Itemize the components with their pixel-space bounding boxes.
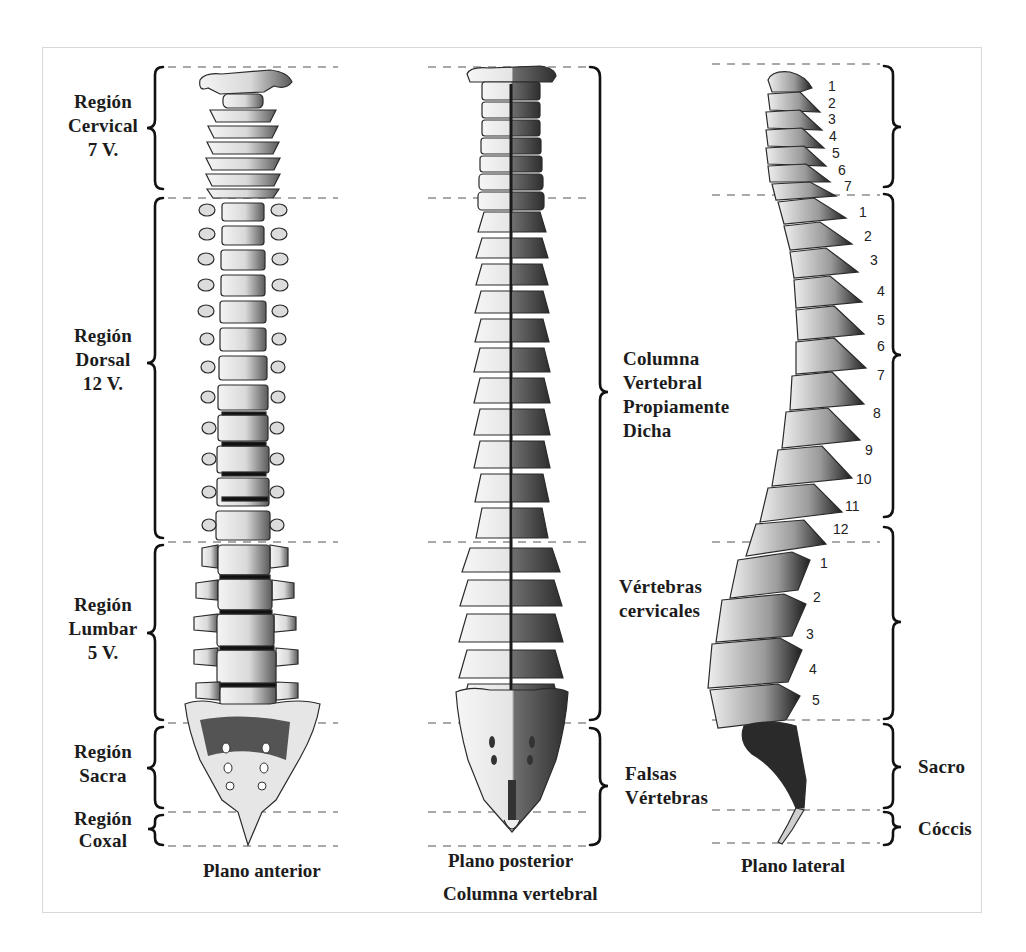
vertebra-number: 8 (873, 405, 881, 421)
vertebra-number: 1 (828, 78, 836, 94)
vertebra-number: 6 (877, 338, 885, 354)
brace-sacra (147, 727, 163, 808)
label-coccis: Cóccis (918, 817, 972, 841)
vertebra-number: 4 (877, 283, 885, 299)
brace-lateral-cervical (884, 66, 901, 187)
brace-cervical (147, 67, 163, 189)
label-columna-propiamente-dicha: Columna Vertebral Propiamente Dicha (623, 347, 729, 443)
caption-plano-anterior: Plano anterior (203, 860, 321, 882)
brace-dorsal (147, 198, 163, 538)
label-vertebras-cervicales: Vértebras cervicales (619, 575, 702, 623)
vertebra-number: 3 (806, 626, 814, 642)
label-falsas-vertebras: Falsas Vértebras (625, 762, 708, 810)
brace-lateral-dorsal (884, 194, 901, 517)
brace-coccis (884, 812, 901, 845)
vertebra-number: 4 (809, 661, 817, 677)
lateral-spine (708, 72, 866, 844)
brace-coxal (148, 815, 163, 845)
figure-title: Columna vertebral (443, 883, 598, 905)
spine-illustration (0, 0, 1026, 952)
vertebra-number: 2 (813, 589, 821, 605)
vertebra-number: 11 (845, 498, 860, 514)
label-region-sacra: Región Sacra (58, 740, 148, 788)
label-region-lumbar: Región Lumbar 5 V. (56, 593, 150, 665)
brace-sacro (884, 724, 901, 808)
label-region-coxal: Región Coxal (58, 808, 148, 852)
anterior-spine (185, 70, 320, 845)
vertebra-number: 6 (838, 162, 846, 178)
caption-plano-posterior: Plano posterior (448, 850, 573, 872)
vertebra-number: 12 (833, 521, 849, 537)
label-region-cervical: Región Cervical 7 V. (58, 90, 148, 162)
vertebra-number: 7 (844, 178, 852, 194)
vertebra-number: 2 (828, 95, 836, 111)
posterior-spine (456, 66, 568, 832)
vertebra-number: 2 (864, 228, 872, 244)
vertebra-number: 1 (859, 204, 867, 220)
label-sacro: Sacro (918, 755, 965, 779)
vertebra-number: 4 (829, 128, 837, 144)
caption-plano-lateral: Plano lateral (741, 855, 845, 877)
vertebra-number: 3 (870, 252, 878, 268)
vertebra-number: 7 (877, 367, 885, 383)
vertebra-number: 5 (832, 145, 840, 161)
brace-lateral-lumbar (884, 527, 901, 719)
vertebra-number: 5 (812, 692, 820, 708)
vertebra-number: 10 (856, 471, 872, 487)
vertebra-number: 1 (820, 555, 828, 571)
brace-columna-propia (590, 67, 608, 720)
vertebra-number: 9 (865, 442, 873, 458)
label-region-dorsal: Región Dorsal 12 V. (58, 324, 148, 396)
vertebra-number: 3 (828, 111, 836, 127)
vertebra-number: 5 (877, 312, 885, 328)
brace-falsas (590, 728, 608, 845)
